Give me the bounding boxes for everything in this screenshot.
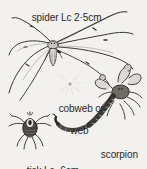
label-scorpion: scorpion Lc 9cm (83, 138, 145, 169)
label-scorpion-line1: scorpion (101, 149, 138, 160)
label-spider: spider Lc 2·5cm (21, 1, 101, 34)
label-spider-text: spider Lc 2·5cm (32, 12, 102, 23)
label-tick-text: tick Lc ·6cm (27, 165, 79, 169)
label-cobweb-line2: web (70, 125, 88, 136)
label-cobweb-line1: cobweb or (59, 103, 104, 114)
tick-illustration (9, 112, 51, 149)
illustration-plate: spider Lc 2·5cm cobweb or web scorpion L… (0, 0, 147, 169)
label-tick: tick Lc ·6cm (16, 154, 79, 169)
